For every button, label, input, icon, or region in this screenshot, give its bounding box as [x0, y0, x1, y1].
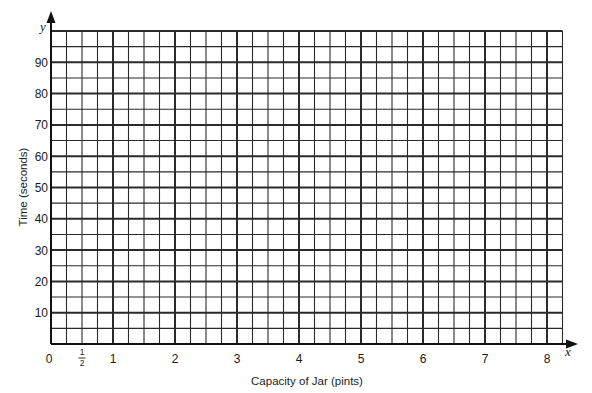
y-tick-label: 80 [35, 87, 49, 101]
y-tick-label: 30 [35, 244, 49, 258]
x-tick-label: 1 [110, 352, 117, 366]
y-tick-label: 40 [35, 212, 49, 226]
y-tick-label: 60 [35, 150, 49, 164]
y-tick-label: 90 [35, 56, 49, 70]
x-axis-title: Capacity of Jar (pints) [251, 375, 363, 387]
x-tick-label: 6 [420, 352, 427, 366]
y-tick-label: 70 [35, 118, 49, 132]
y-axis-tick-labels: 102030405060708090 [35, 56, 49, 320]
y-tick-label: 10 [35, 306, 49, 320]
y-tick-label: 20 [35, 275, 49, 289]
x-tick-label: 3 [234, 352, 241, 366]
x-tick-label: 5 [358, 352, 365, 366]
y-axis-title: Time (seconds) [17, 147, 29, 226]
blank-graph-chart: 01212345678 102030405060708090 x y Capac… [0, 0, 592, 393]
x-tick-label: 2 [172, 352, 179, 366]
y-axis-symbol: y [38, 19, 46, 34]
x-axis-symbol: x [564, 344, 571, 359]
y-axis-arrow-icon [47, 11, 56, 23]
x-tick-label-half: 12 [79, 347, 86, 368]
graph-grid [51, 31, 563, 344]
svg-text:1: 1 [80, 347, 85, 357]
x-tick-label: 4 [296, 352, 303, 366]
y-tick-label: 50 [35, 181, 49, 195]
x-tick-label: 0 [46, 352, 53, 366]
x-axis-tick-labels: 01212345678 [46, 347, 551, 368]
svg-text:2: 2 [80, 358, 85, 368]
x-tick-label: 8 [544, 352, 551, 366]
x-tick-label: 7 [482, 352, 489, 366]
